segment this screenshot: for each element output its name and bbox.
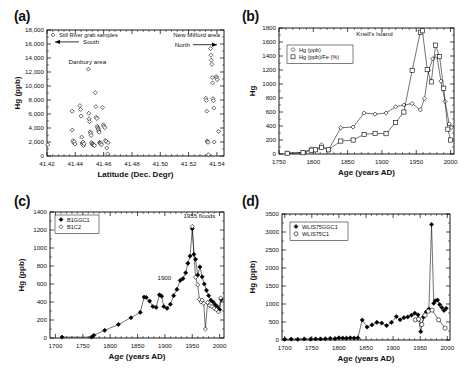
svg-text:14,000: 14,000 [25, 54, 44, 61]
data-point [188, 254, 192, 258]
data-point [138, 310, 142, 314]
data-point [301, 151, 305, 155]
svg-text:4,000: 4,000 [29, 124, 45, 131]
data-point [86, 67, 90, 71]
svg-text:500: 500 [269, 318, 280, 325]
data-point [433, 43, 437, 47]
data-point [106, 152, 110, 156]
svg-text:1950: 1950 [185, 342, 199, 349]
legend-label: B1C2 [67, 224, 81, 230]
svg-text:10,000: 10,000 [25, 82, 44, 89]
svg-text:1700: 1700 [278, 344, 292, 351]
svg-text:0: 0 [41, 152, 45, 159]
data-point [437, 55, 441, 59]
data-point [93, 91, 97, 95]
legend-label: Hg (ppb)/Fe (%) [299, 54, 339, 60]
data-point [425, 68, 429, 72]
svg-text:1500: 1500 [265, 282, 279, 289]
panel-b: (b) 175018001850190019502000020040060080… [236, 0, 466, 190]
data-point [380, 321, 384, 325]
data-point [212, 106, 216, 110]
svg-text:400: 400 [266, 122, 277, 129]
data-point [402, 110, 406, 114]
svg-text:800: 800 [266, 94, 277, 101]
svg-text:1750: 1750 [272, 158, 286, 165]
data-point [172, 294, 176, 298]
data-point [410, 102, 414, 106]
data-point [184, 271, 188, 275]
svg-text:2000: 2000 [213, 342, 227, 349]
panel-d-chart: 1700175018001850190019502000050010001500… [236, 190, 466, 380]
data-point [210, 62, 214, 66]
svg-text:8,000: 8,000 [29, 96, 45, 103]
data-point [291, 55, 295, 59]
data-point [209, 53, 213, 57]
data-point [384, 324, 388, 328]
data-point [70, 128, 74, 132]
y-axis-title: Hg (ppb) [17, 258, 26, 291]
y-axis-title: Hg (ppb) [13, 76, 22, 109]
panel-d: (d) 170017501800185019001950200005001000… [236, 190, 466, 380]
svg-text:1600: 1600 [262, 38, 276, 45]
data-point [420, 29, 424, 33]
svg-text:2000: 2000 [265, 264, 279, 271]
svg-text:1200: 1200 [262, 66, 276, 73]
svg-text:41.42: 41.42 [39, 160, 55, 167]
x-axis-title: Age (years AD) [337, 354, 394, 363]
svg-text:16,000: 16,000 [25, 40, 44, 47]
data-point [207, 294, 211, 298]
svg-text:1800: 1800 [103, 342, 117, 349]
data-point [418, 108, 422, 112]
svg-text:1900: 1900 [375, 158, 389, 165]
svg-text:600: 600 [266, 108, 277, 115]
plot-frame [47, 30, 224, 156]
data-point [103, 328, 107, 332]
data-point [423, 313, 427, 317]
svg-text:0: 0 [44, 334, 48, 341]
svg-text:1700: 1700 [49, 342, 63, 349]
svg-text:3000: 3000 [265, 228, 279, 235]
data-point [410, 68, 414, 72]
svg-text:1800: 1800 [262, 24, 276, 31]
annotation-danbury: Danbury area [69, 58, 107, 65]
svg-text:41.50: 41.50 [153, 160, 169, 167]
data-point [360, 318, 364, 322]
annotation-1955-floods: 1955 floods [183, 212, 215, 219]
svg-text:3500: 3500 [265, 210, 279, 217]
data-point [373, 131, 377, 135]
annotation-south: South [83, 38, 100, 45]
data-point [200, 275, 204, 279]
data-point [373, 112, 377, 116]
panel-c-chart: 1700175018001850190019502000020040060080… [0, 190, 236, 380]
data-point [116, 322, 120, 326]
svg-text:41.48: 41.48 [124, 160, 140, 167]
svg-text:200: 200 [37, 316, 48, 323]
data-point [80, 135, 84, 139]
data-point [211, 81, 215, 85]
svg-text:1000: 1000 [265, 300, 279, 307]
svg-text:6,000: 6,000 [29, 110, 45, 117]
svg-text:1200: 1200 [33, 226, 47, 233]
svg-text:1400: 1400 [262, 52, 276, 59]
svg-text:41.52: 41.52 [181, 160, 197, 167]
data-point [313, 148, 317, 152]
x-axis-title: Age (years AD) [108, 352, 165, 361]
data-point [78, 104, 82, 108]
legend-label: B1GGC1 [67, 217, 90, 223]
data-point [175, 287, 179, 291]
data-point [447, 122, 451, 126]
panel-d-label: (d) [242, 193, 259, 209]
svg-text:1750: 1750 [76, 342, 90, 349]
data-point [365, 325, 369, 329]
svg-text:0: 0 [273, 150, 277, 157]
data-point [419, 330, 423, 334]
data-point [204, 288, 208, 292]
data-point [384, 132, 388, 136]
data-point [309, 148, 313, 152]
data-point [70, 109, 74, 113]
data-point [446, 127, 450, 131]
svg-text:1800: 1800 [332, 344, 346, 351]
data-point [186, 261, 190, 265]
data-point [209, 47, 213, 51]
svg-text:1850: 1850 [359, 344, 373, 351]
